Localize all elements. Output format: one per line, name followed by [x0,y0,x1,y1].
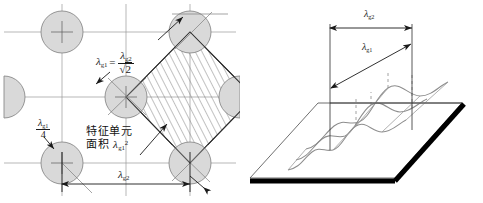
right-panel-group [250,24,464,181]
technical-diagram: λg1 = λg2 √2 λg1 4 特征单元 面积 λg12 λg2 λg2 [0,0,483,203]
leader-formula-lower [96,72,110,84]
diagram-canvas [0,0,483,203]
circle-left-edge-half [4,76,25,118]
leader-cell-caption [140,124,167,155]
plate-top-face-helper [328,38,462,103]
left-panel-group [4,4,254,196]
